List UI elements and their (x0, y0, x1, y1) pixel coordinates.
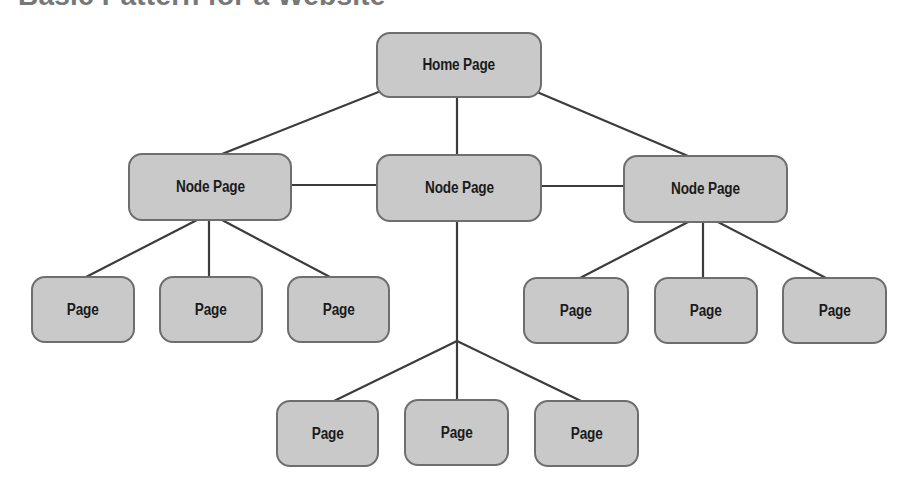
page-bottom-3[interactable]: Page (534, 400, 639, 467)
node-label: Page (441, 424, 473, 442)
link-node-center-page1 (334, 341, 457, 401)
node-label: Page (819, 302, 851, 320)
node-label: Page (690, 302, 722, 320)
link-node-left-page1 (86, 220, 197, 277)
link-node-right-page1 (580, 221, 690, 278)
node-label: Page (560, 302, 592, 320)
node-label: Page (67, 301, 99, 319)
node-label: Node Page (425, 179, 494, 197)
link-node-center-page3 (457, 341, 581, 401)
node-page-left[interactable]: Node Page (128, 153, 292, 221)
link-home-node-left (222, 91, 381, 154)
page-left-2[interactable]: Page (159, 276, 263, 343)
page-right-2[interactable]: Page (654, 277, 758, 344)
node-label: Page (312, 425, 344, 443)
node-home-page[interactable]: Home Page (376, 32, 542, 98)
link-node-left-page3 (222, 220, 330, 277)
node-label: Page (571, 425, 603, 443)
page-bottom-2[interactable]: Page (404, 399, 509, 466)
link-node-right-page3 (716, 221, 826, 278)
page-right-1[interactable]: Page (523, 277, 629, 344)
page-left-3[interactable]: Page (287, 276, 390, 343)
node-label: Node Page (176, 178, 245, 196)
link-home-node-right (537, 92, 688, 156)
node-page-right[interactable]: Node Page (623, 155, 788, 223)
node-label: Home Page (423, 56, 496, 74)
page-bottom-1[interactable]: Page (276, 400, 379, 467)
page-left-1[interactable]: Page (31, 276, 135, 343)
node-label: Node Page (671, 180, 740, 198)
node-label: Page (323, 301, 355, 319)
page-right-3[interactable]: Page (782, 277, 887, 344)
node-label: Page (195, 301, 227, 319)
node-page-center[interactable]: Node Page (376, 154, 542, 222)
